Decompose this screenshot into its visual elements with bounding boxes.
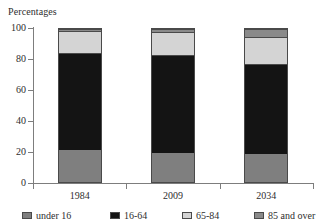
legend-swatch-icon bbox=[22, 212, 32, 219]
legend-label: 65-84 bbox=[196, 210, 219, 221]
x-axis-end-tick bbox=[33, 183, 34, 189]
chart-legend: under 1616-6465-8485 and over bbox=[22, 208, 312, 222]
bar-segment[interactable] bbox=[245, 37, 287, 65]
stacked-bar[interactable] bbox=[58, 28, 102, 183]
legend-label: 85 and over bbox=[268, 210, 315, 221]
stacked-bar[interactable] bbox=[151, 28, 195, 183]
y-tick-label: 40 bbox=[16, 116, 26, 126]
bar-segment[interactable] bbox=[59, 31, 101, 54]
legend-swatch-icon bbox=[254, 212, 264, 219]
bar-segment[interactable] bbox=[245, 64, 287, 154]
bar-segment[interactable] bbox=[59, 150, 101, 182]
x-axis-line bbox=[33, 183, 313, 184]
y-tick-mark bbox=[28, 152, 33, 153]
bar-segment[interactable] bbox=[152, 32, 194, 55]
bar-group[interactable] bbox=[58, 28, 102, 183]
legend-label: 16-64 bbox=[124, 210, 147, 221]
y-tick-label: 100 bbox=[11, 23, 26, 33]
y-tick-label: 80 bbox=[16, 54, 26, 64]
y-tick-mark bbox=[28, 28, 33, 29]
bar-segment[interactable] bbox=[245, 29, 287, 37]
legend-item[interactable]: 85 and over bbox=[254, 210, 315, 221]
bar-group[interactable] bbox=[151, 28, 195, 183]
bar-segment[interactable] bbox=[152, 153, 194, 182]
y-tick-label: 60 bbox=[16, 85, 26, 95]
legend-item[interactable]: under 16 bbox=[22, 210, 71, 221]
legend-item[interactable]: 16-64 bbox=[110, 210, 147, 221]
legend-swatch-icon bbox=[182, 212, 192, 219]
plot-area: 020406080100 bbox=[33, 28, 313, 183]
y-tick-label: 20 bbox=[16, 147, 26, 157]
x-axis-end-tick bbox=[313, 183, 314, 189]
bar-segment[interactable] bbox=[152, 55, 194, 153]
y-tick-mark bbox=[28, 90, 33, 91]
bar-segment[interactable] bbox=[59, 53, 101, 150]
bar-group[interactable] bbox=[244, 28, 288, 183]
y-axis-title: Percentages bbox=[8, 6, 57, 17]
x-tick-label: 2009 bbox=[163, 190, 183, 201]
legend-label: under 16 bbox=[36, 210, 71, 221]
y-tick-mark bbox=[28, 121, 33, 122]
x-tick-label: 1984 bbox=[70, 190, 90, 201]
x-category-separator bbox=[220, 183, 221, 189]
y-tick-mark bbox=[28, 59, 33, 60]
stacked-bar[interactable] bbox=[244, 28, 288, 183]
bar-segment[interactable] bbox=[245, 154, 287, 182]
legend-swatch-icon bbox=[110, 212, 120, 219]
x-tick-label: 2034 bbox=[256, 190, 276, 201]
x-category-separator bbox=[126, 183, 127, 189]
legend-item[interactable]: 65-84 bbox=[182, 210, 219, 221]
stacked-bar-chart: Percentages 020406080100 198420092034 un… bbox=[0, 0, 319, 224]
y-tick-label: 0 bbox=[21, 178, 26, 188]
